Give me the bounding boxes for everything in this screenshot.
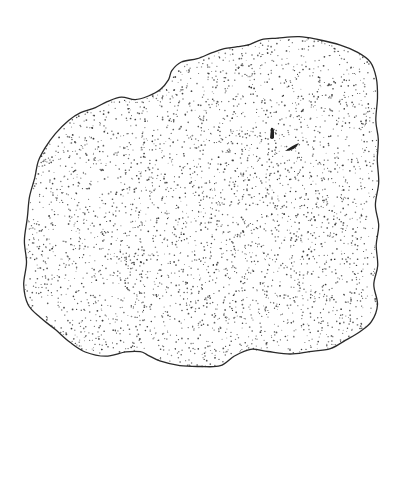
- dark-marks: [270, 128, 299, 151]
- stipple-dots: [25, 38, 378, 368]
- organism-outline: [24, 37, 379, 367]
- illustration: [0, 0, 405, 487]
- stipple-drawing: [0, 0, 405, 487]
